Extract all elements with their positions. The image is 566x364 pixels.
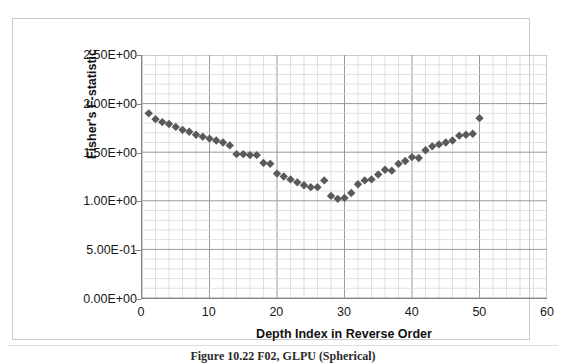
y-axis-tick-label: 1.00E+00 xyxy=(13,194,137,208)
data-point xyxy=(428,142,436,150)
y-axis-tick-label: 1.50E+00 xyxy=(13,146,137,160)
data-point xyxy=(388,166,396,174)
data-point xyxy=(435,140,443,148)
data-point xyxy=(475,114,483,122)
y-axis-tick-label: 2.50E+00 xyxy=(13,48,137,62)
data-point xyxy=(320,176,328,184)
y-axis-tick-label: 2.00E+00 xyxy=(13,97,137,111)
data-point xyxy=(340,194,348,202)
scatter-series-fishers-f-statistic xyxy=(142,55,547,298)
x-axis-tick-label: 50 xyxy=(459,305,499,319)
x-axis-tick-label: 30 xyxy=(324,305,364,319)
data-point xyxy=(448,136,456,144)
figure-caption: Figure 10.22 F02, GLPU (Spherical) xyxy=(0,349,566,364)
data-point xyxy=(381,166,389,174)
data-point xyxy=(212,136,220,144)
y-axis-tick-mark xyxy=(135,299,141,300)
plot-area xyxy=(141,55,547,299)
x-axis-tick-label: 10 xyxy=(189,305,229,319)
data-point xyxy=(455,131,463,139)
data-point xyxy=(421,146,429,154)
page-rule xyxy=(8,345,558,346)
data-point xyxy=(354,180,362,188)
data-point xyxy=(313,183,321,191)
data-point xyxy=(462,131,470,139)
data-point xyxy=(442,138,450,146)
y-axis-tick-label: 5.00E-01 xyxy=(13,243,137,257)
x-axis-title: Depth Index in Reverse Order xyxy=(141,327,547,341)
data-point xyxy=(361,176,369,184)
data-point xyxy=(347,189,355,197)
data-point xyxy=(259,159,267,167)
data-point xyxy=(415,154,423,162)
chart-frame: Fisher's F-statistic Depth Index in Reve… xyxy=(12,18,530,340)
data-point xyxy=(205,134,213,142)
x-axis-tick-label: 0 xyxy=(121,305,161,319)
data-point xyxy=(374,170,382,178)
data-point xyxy=(145,109,153,117)
data-point xyxy=(199,132,207,140)
y-axis-tick-label: 0.00E+00 xyxy=(13,292,137,306)
data-point xyxy=(469,130,477,138)
data-point xyxy=(367,175,375,183)
data-point xyxy=(266,160,274,168)
data-point xyxy=(408,153,416,161)
figure-container: Fisher's F-statistic Depth Index in Reve… xyxy=(0,0,566,364)
data-point xyxy=(239,150,247,158)
data-point xyxy=(253,151,261,159)
x-axis-tick-label: 20 xyxy=(256,305,296,319)
x-axis-tick-label: 60 xyxy=(527,305,566,319)
x-axis-tick-label: 40 xyxy=(392,305,432,319)
